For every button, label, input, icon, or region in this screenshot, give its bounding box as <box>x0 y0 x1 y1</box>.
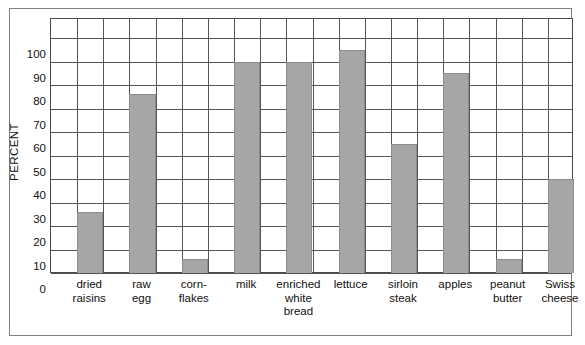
gridline-horizontal <box>51 273 572 274</box>
plot-area <box>50 18 573 273</box>
x-axis-category-labels: driedraisinsraweggcorn-flakesmilkenriche… <box>50 278 573 330</box>
x-tick-label-line: bread <box>253 305 343 319</box>
bar <box>548 179 574 273</box>
x-tick-label-line: white <box>253 292 343 306</box>
bar <box>391 144 417 273</box>
y-tick-label: 60 <box>4 143 46 154</box>
y-tick-label: 20 <box>4 237 46 248</box>
y-axis-tick-labels: PERCENT 0102030405060708090100 <box>0 18 46 273</box>
bar <box>129 94 155 273</box>
y-tick-label: 10 <box>4 261 46 272</box>
bar <box>443 73 469 273</box>
bars-container <box>51 19 572 272</box>
bar <box>182 259 208 273</box>
y-tick-label: 100 <box>4 49 46 60</box>
x-tick-label: Swisscheese <box>515 278 585 305</box>
bar <box>234 62 260 274</box>
x-tick-label-line: Swiss <box>515 278 585 292</box>
bar <box>286 62 312 274</box>
bar <box>339 50 365 273</box>
bar <box>77 212 103 273</box>
y-tick-label: 0 <box>4 284 46 295</box>
x-tick-label-line: steak <box>358 292 448 306</box>
y-tick-label: 40 <box>4 190 46 201</box>
x-tick-label-line: cheese <box>515 292 585 306</box>
y-tick-label: 80 <box>4 96 46 107</box>
x-tick-label-line: flakes <box>149 292 239 306</box>
y-tick-label: 30 <box>4 214 46 225</box>
y-tick-label: 50 <box>4 167 46 178</box>
y-tick-label: 70 <box>4 120 46 131</box>
bar <box>496 259 522 273</box>
y-tick-label: 90 <box>4 73 46 84</box>
bar-chart-figure: PERCENT 0102030405060708090100 driedrais… <box>0 0 585 345</box>
